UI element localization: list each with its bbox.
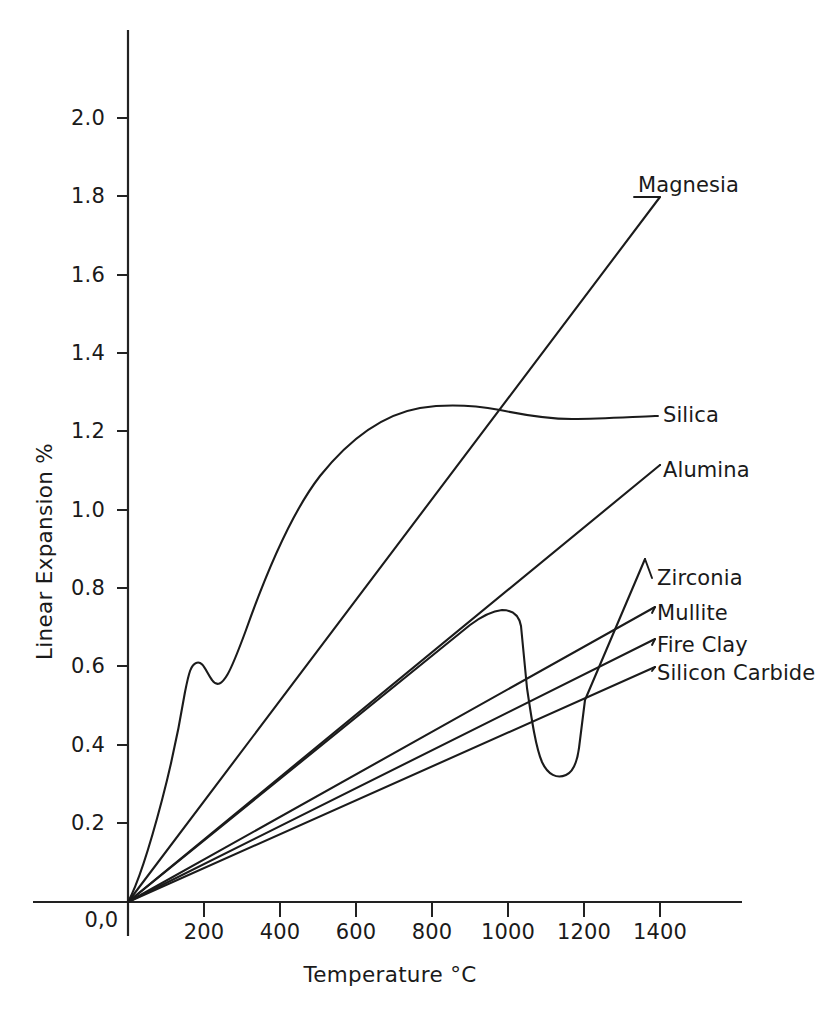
series-silica [128, 405, 655, 902]
series-mullite [128, 607, 655, 902]
xtick-label-200: 200 [184, 920, 225, 944]
series-label-zirconia: Zirconia [657, 566, 743, 590]
series-label-magnesia: Magnesia [638, 173, 739, 197]
ytick-label-0-4: 0.4 [33, 733, 105, 757]
ytick-label-1-6: 1.6 [33, 263, 105, 287]
xtick-label-800: 800 [412, 920, 453, 944]
xtick-label-1200: 1200 [557, 920, 611, 944]
series-fire-clay [128, 639, 655, 902]
ytick-label-1-8: 1.8 [33, 184, 105, 208]
x-axis-title: Temperature °C [304, 962, 477, 987]
series-label-alumina: Alumina [663, 458, 750, 482]
y-axis-title: Linear Expansion % [32, 443, 57, 660]
ytick-label-0-2: 0.2 [33, 811, 105, 835]
ytick-label-2-0: 2.0 [33, 106, 105, 130]
xtick-label-400: 400 [260, 920, 301, 944]
series-silicon-carbide [128, 667, 655, 902]
series-label-silicon-carbide: Silicon Carbide [657, 661, 815, 685]
xtick-label-1400: 1400 [633, 920, 687, 944]
series-label-mullite: Mullite [657, 601, 728, 625]
origin-label: 0,0 [85, 908, 118, 932]
ytick-label-1-4: 1.4 [33, 341, 105, 365]
x-tick-marks [204, 902, 660, 917]
ytick-label-1-2: 1.2 [33, 419, 105, 443]
series-zirconia [128, 559, 645, 902]
y-tick-marks [117, 118, 128, 823]
xtick-label-600: 600 [336, 920, 377, 944]
leader-line-zirconia [645, 559, 652, 578]
series-label-silica: Silica [663, 403, 719, 427]
xtick-label-1000: 1000 [481, 920, 535, 944]
series-label-fire-clay: Fire Clay [657, 633, 748, 657]
series-magnesia [128, 197, 660, 902]
